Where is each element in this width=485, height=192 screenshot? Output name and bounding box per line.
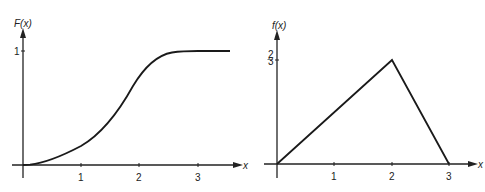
x-tick-label-3: 3 (446, 171, 452, 182)
x-axis-label: x (477, 159, 484, 170)
charts-canvas: F(x) x 1 1 2 3 f(x) x 2 3 1 2 3 (0, 0, 485, 192)
cdf-chart: F(x) x 1 1 2 3 (12, 18, 249, 183)
pdf-triangle (277, 60, 449, 164)
x-tick-label-2: 2 (389, 171, 395, 182)
pdf-chart: f(x) x 2 3 1 2 3 (264, 20, 484, 182)
cdf-curve (23, 51, 230, 165)
y-axis-label: F(x) (14, 18, 32, 29)
x-tick-label-1: 1 (78, 172, 84, 183)
x-tick-label-3: 3 (195, 172, 201, 183)
y-axis-label: f(x) (272, 20, 286, 31)
y-tick-label: 1 (14, 46, 20, 57)
x-tick-label-2: 2 (136, 172, 142, 183)
x-tick-label-1: 1 (331, 171, 337, 182)
x-axis-label: x (242, 160, 249, 171)
y-tick-label-denominator: 3 (268, 56, 274, 67)
y-axis-arrow-icon (274, 30, 280, 40)
x-axis-arrow-icon (233, 162, 243, 168)
y-axis-arrow-icon (20, 28, 26, 38)
x-axis-arrow-icon (468, 161, 478, 167)
